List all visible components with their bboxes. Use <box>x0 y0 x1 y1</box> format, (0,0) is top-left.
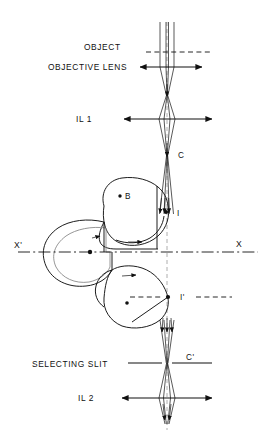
label-point-b: B <box>125 192 131 201</box>
ray-diagram-canvas: B I X' X I' C' <box>0 0 265 439</box>
label-image-i: I <box>177 209 180 218</box>
point-b-marker <box>118 194 121 197</box>
lower-bean-flow-arrow <box>122 275 136 276</box>
label-image-i-prime: I' <box>180 293 185 302</box>
left-loop-inner <box>54 227 110 282</box>
image-point-i-prime-marker <box>166 295 170 299</box>
label-axis-x-prime: X' <box>14 240 23 250</box>
label-object: OBJECT <box>84 42 121 52</box>
lower-bean-chord <box>132 297 168 322</box>
label-il1: IL 1 <box>76 114 92 124</box>
crossover-c-to-image-rays <box>160 155 174 214</box>
image-point-i-marker <box>164 210 168 214</box>
left-loop-flow-arrow <box>92 236 100 238</box>
label-axis-x: X <box>236 239 242 249</box>
label-crossover-c-prime: C' <box>186 353 195 362</box>
upper-bean-outline <box>103 177 169 245</box>
label-crossover-c: C <box>178 151 185 160</box>
lower-bean-dot <box>125 301 129 305</box>
label-il2: IL 2 <box>78 393 94 403</box>
label-objective-lens: OBJECTIVE LENS <box>48 62 127 72</box>
label-selecting-slit: SELECTING SLIT <box>32 359 108 369</box>
